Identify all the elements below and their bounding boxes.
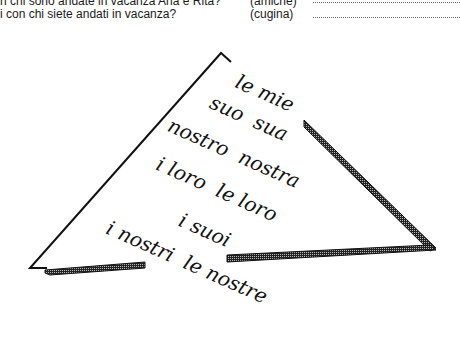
triangle-right-edge: [304, 120, 436, 251]
triangle-bottom-right-segment: [227, 245, 436, 262]
triangle-bottom-left-segment: [45, 262, 145, 275]
